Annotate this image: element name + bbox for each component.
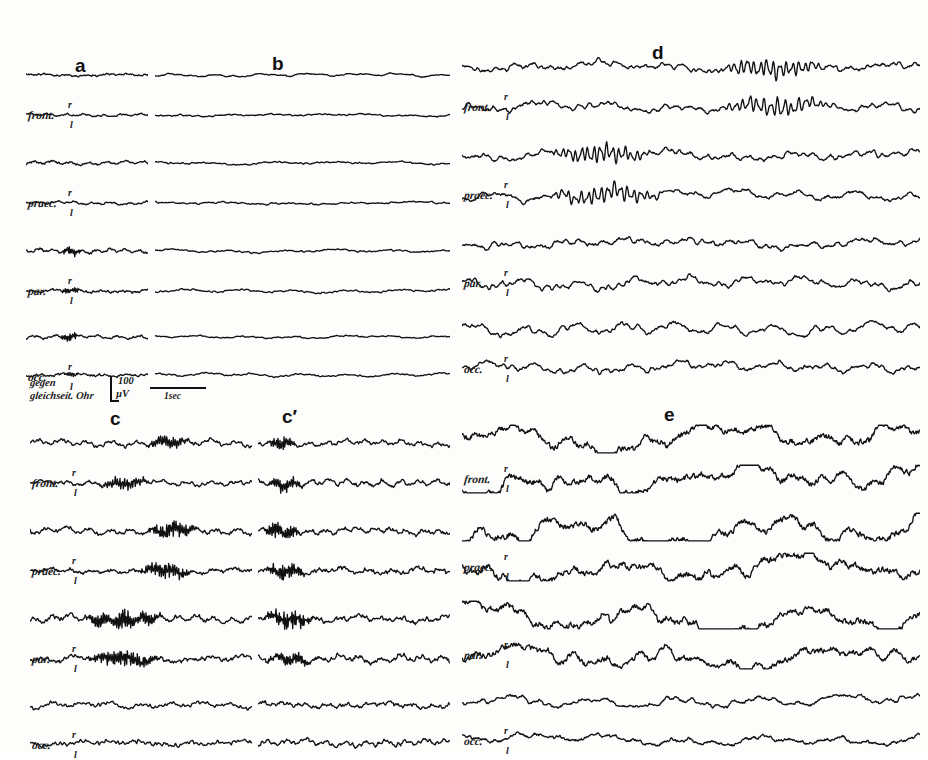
- time-calibration-label: 1sec: [164, 391, 181, 401]
- panel-letter-e: e: [664, 405, 675, 424]
- side-mark-right-praec: r: [72, 556, 76, 566]
- eeg-trace-front-l: [462, 464, 920, 494]
- eeg-trace-praec-r: [462, 512, 920, 542]
- eeg-trace-occ-l: [462, 352, 920, 382]
- eeg-trace-praec-l: [30, 556, 252, 586]
- eeg-trace-par-r: [258, 604, 450, 634]
- channel-label-occ: occ.: [463, 364, 483, 376]
- side-mark-right-front: r: [504, 92, 508, 102]
- side-mark-right-occ: r: [68, 362, 72, 372]
- channel-label-occ: occ.: [463, 736, 483, 748]
- channel-label-praec: praec.: [463, 190, 493, 202]
- eeg-trace-occ-l: [462, 724, 920, 754]
- channel-label-front: front.: [463, 102, 491, 114]
- eeg-trace-praec-r: [30, 516, 252, 546]
- eeg-trace-occ-r: [258, 690, 450, 720]
- eeg-trace-front-r: [26, 60, 148, 90]
- eeg-trace-occ-l: [30, 728, 252, 758]
- channel-label-occ: occ.: [31, 740, 51, 752]
- eeg-trace-front-l: [30, 468, 252, 498]
- eeg-panel-e: front.rlpraec.rlpar.rlocc.rl: [462, 424, 920, 728]
- channel-label-par: par.: [27, 286, 46, 298]
- side-mark-right-occ: r: [504, 354, 508, 364]
- eeg-trace-occ-l: [258, 728, 450, 758]
- eeg-trace-praec-r: [26, 148, 148, 178]
- side-mark-left-par: l: [74, 664, 77, 674]
- channel-label-praec: praec.: [27, 198, 57, 210]
- calibration-reference-line-1: gegen: [29, 377, 56, 389]
- channel-label-par: par.: [31, 654, 50, 666]
- side-mark-left-occ: l: [74, 750, 77, 760]
- eeg-trace-front-r: [30, 428, 252, 458]
- side-mark-left-par: l: [506, 660, 509, 670]
- eeg-trace-occ-r: [155, 322, 450, 352]
- eeg-trace-praec-l: [462, 180, 920, 210]
- panel-letter-a: a: [75, 56, 86, 75]
- eeg-trace-front-l: [258, 468, 450, 498]
- side-mark-left-par: l: [506, 288, 509, 298]
- side-mark-left-front: l: [70, 120, 73, 130]
- side-mark-left-praec: l: [70, 208, 73, 218]
- channel-label-front: front.: [463, 474, 491, 486]
- eeg-trace-par-l: [462, 268, 920, 298]
- eeg-panel-c-prime: [258, 428, 450, 728]
- panel-letter-c: c: [110, 409, 121, 428]
- channel-label-praec: praec.: [463, 562, 493, 574]
- eeg-trace-occ-r: [462, 314, 920, 344]
- side-mark-right-occ: r: [504, 726, 508, 736]
- eeg-panel-b: [155, 60, 450, 368]
- side-mark-left-front: l: [506, 484, 509, 494]
- channel-label-par: par.: [463, 278, 482, 290]
- eeg-trace-praec-l: [155, 188, 450, 218]
- side-mark-left-praec: l: [506, 572, 509, 582]
- channel-label-front: front.: [31, 478, 59, 490]
- side-mark-left-praec: l: [74, 576, 77, 586]
- amplitude-calibration-value: 100: [118, 375, 134, 387]
- channel-label-front: front.: [27, 110, 55, 122]
- eeg-trace-praec-r: [462, 140, 920, 170]
- panel-letter-d: d: [652, 43, 664, 62]
- eeg-trace-praec-l: [462, 552, 920, 582]
- channel-label-par: par.: [463, 650, 482, 662]
- channel-label-praec: praec.: [31, 566, 61, 578]
- side-mark-left-occ: l: [506, 746, 509, 756]
- eeg-trace-par-l: [155, 276, 450, 306]
- eeg-trace-praec-r: [258, 516, 450, 546]
- side-mark-left-par: l: [70, 296, 73, 306]
- eeg-trace-occ-r: [26, 322, 148, 352]
- eeg-trace-front-r: [462, 424, 920, 454]
- side-mark-left-front: l: [74, 488, 77, 498]
- eeg-trace-front-r: [155, 60, 450, 90]
- side-mark-left-occ: l: [506, 374, 509, 384]
- eeg-trace-occ-r: [462, 686, 920, 716]
- eeg-trace-par-r: [462, 228, 920, 258]
- eeg-trace-par-r: [155, 236, 450, 266]
- side-mark-right-par: r: [68, 276, 72, 286]
- side-mark-right-front: r: [72, 468, 76, 478]
- side-mark-right-par: r: [504, 640, 508, 650]
- side-mark-right-par: r: [504, 268, 508, 278]
- eeg-trace-occ-r: [30, 690, 252, 720]
- eeg-trace-praec-r: [155, 148, 450, 178]
- eeg-panel-c: front.rlpraec.rlpar.rlocc.rl: [30, 428, 252, 728]
- eeg-trace-front-l: [155, 100, 450, 130]
- eeg-trace-par-r: [26, 236, 148, 266]
- side-mark-right-occ: r: [72, 730, 76, 740]
- amplitude-calibration-unit: µV: [116, 388, 129, 400]
- eeg-trace-occ-l: [155, 360, 450, 390]
- side-mark-right-front: r: [504, 464, 508, 474]
- side-mark-left-front: l: [506, 112, 509, 122]
- panel-letter-b: b: [272, 54, 284, 73]
- side-mark-right-front: r: [68, 100, 72, 110]
- eeg-trace-par-l: [30, 644, 252, 674]
- panel-letter-cp: c′: [282, 407, 297, 426]
- side-mark-right-par: r: [72, 644, 76, 654]
- eeg-trace-front-l: [462, 92, 920, 122]
- side-mark-right-praec: r: [504, 180, 508, 190]
- eeg-trace-par-l: [462, 640, 920, 670]
- eeg-trace-front-r: [258, 428, 450, 458]
- side-mark-left-praec: l: [506, 200, 509, 210]
- calibration-reference-line-2: gleichseit. Ohr: [29, 390, 94, 402]
- side-mark-right-praec: r: [504, 552, 508, 562]
